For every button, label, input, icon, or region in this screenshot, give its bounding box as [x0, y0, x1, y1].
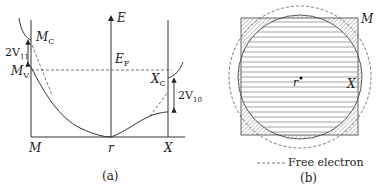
panel-a: E EF MC MV 2V11 XC 2V10 M r X (a) [5, 11, 202, 183]
legend-label: Free electron [288, 156, 364, 169]
point-label-r: r [108, 141, 115, 155]
fermi-sea-fill [241, 22, 358, 132]
mc-label: MC [35, 30, 54, 46]
gap-x-label: 2V10 [178, 89, 202, 104]
edge-label-x: X [346, 77, 356, 91]
energy-axis-label: E [116, 11, 126, 25]
band-structure-diagram: E EF MC MV 2V11 XC 2V10 M r X (a) [0, 0, 378, 192]
point-label-m: M [28, 141, 42, 155]
lower-band-curve-x [111, 112, 168, 137]
upper-band-curve-x [168, 62, 183, 78]
xc-label: XC [150, 72, 166, 88]
center-label: r [293, 76, 299, 89]
center-point-dot [299, 76, 302, 79]
mv-label: MV [10, 64, 29, 80]
panel-b: r X M Free electron (b) [229, 5, 374, 185]
fermi-level-label: EF [114, 52, 130, 68]
point-label-x: X [163, 141, 173, 155]
corner-label-m: M [360, 12, 374, 26]
gap-m-label: 2V11 [5, 46, 29, 61]
caption-b: (b) [300, 171, 317, 185]
upper-band-curve-m [19, 18, 31, 40]
caption-a: (a) [102, 169, 119, 183]
brillouin-zone-square [241, 18, 358, 135]
lower-band-curve-m [31, 67, 111, 137]
